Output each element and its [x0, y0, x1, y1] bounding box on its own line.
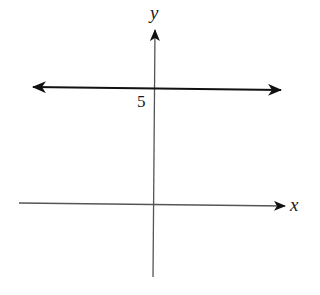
- y-axis: [153, 30, 155, 277]
- x-axis: [19, 203, 285, 206]
- x-axis-label: x: [290, 194, 298, 216]
- coordinate-plane: [0, 0, 320, 295]
- graph-line-y-equals-5: [33, 87, 281, 90]
- y-axis-label: y: [150, 2, 158, 24]
- y-intercept-label: 5: [137, 92, 146, 112]
